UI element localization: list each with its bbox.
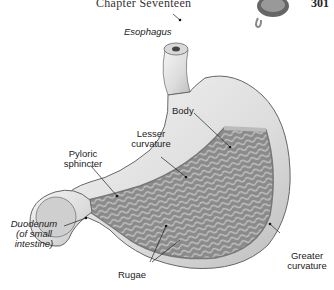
- label-duodenum: Duodenum (of small intestine): [5, 219, 63, 249]
- label-body: Body: [172, 106, 194, 116]
- label-greater-curvature-line2: curvature: [283, 261, 331, 271]
- label-lesser-curvature-line2: curvature: [126, 139, 176, 149]
- label-pyloric-sphincter: Pyloric sphincter: [59, 149, 107, 169]
- label-duodenum-line3: intestine): [5, 239, 63, 249]
- label-esophagus: Esophagus: [124, 27, 172, 37]
- label-rugae: Rugae: [118, 270, 146, 280]
- label-pyloric-sphincter-line2: sphincter: [59, 159, 107, 169]
- label-lesser-curvature: Lesser curvature: [126, 129, 176, 149]
- label-greater-curvature: Greater curvature: [283, 251, 331, 271]
